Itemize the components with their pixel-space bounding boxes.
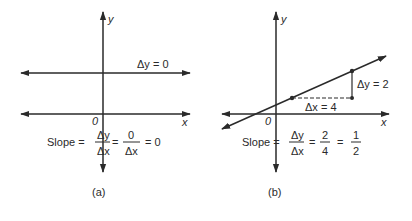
x-axis-label: x [181,116,188,128]
slope-prefix: Slope = [242,136,280,148]
fraction-numerator: 0 [128,129,134,141]
origin-label: 0 [92,115,99,127]
panel-b: y x 0 Δy = 2 Δx = 4 Slope = Δy Δx = 2 4 … [222,12,389,198]
sloped-line [222,56,386,129]
slope-diagram: y x 0 Δy = 0 Slope = Δy Δx = 0 Δx = 0 (a… [0,0,412,221]
equals-sign: = [112,136,118,148]
slope-formula: Slope = Δy Δx = 0 Δx = 0 [47,129,161,157]
slope-prefix: Slope = [47,136,85,148]
point-1 [290,96,294,100]
panel-a: y x 0 Δy = 0 Slope = Δy Δx = 0 Δx = 0 (a… [21,12,190,198]
slope-formula: Slope = Δy Δx = 2 4 = 1 2 [242,129,361,157]
fraction-denominator: Δx [125,145,138,157]
fraction-numerator: 2 [322,129,328,141]
fraction-denominator: 2 [353,145,359,157]
fraction-denominator: Δx [291,145,304,157]
delta-x-label: Δx = 4 [305,101,337,113]
equals-sign: = [337,136,343,148]
caption-b: (b) [268,186,281,198]
result: = 0 [145,136,161,148]
equals-sign: = [309,136,315,148]
y-axis-label: y [107,13,115,25]
fraction-denominator: Δx [97,145,110,157]
delta-y-label: Δy = 0 [137,58,169,70]
y-axis-label: y [280,13,288,25]
fraction-denominator: 4 [322,145,328,157]
fraction-numerator: 1 [353,129,359,141]
origin-label: 0 [265,115,272,127]
fraction-numerator: Δy [291,129,304,141]
fraction-numerator: Δy [97,129,110,141]
delta-y-label: Δy = 2 [357,78,389,90]
caption-a: (a) [92,186,105,198]
point-2 [350,69,354,73]
corner-point [350,96,354,100]
x-axis-label: x [380,116,387,128]
